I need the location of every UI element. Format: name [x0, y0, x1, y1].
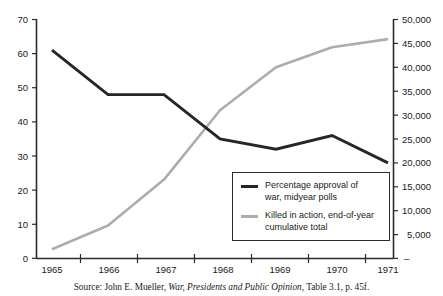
x-tick-label-1965: 1965: [41, 264, 62, 275]
source-note-suffix: , Table 3.1, p. 45f.: [302, 282, 370, 292]
legend-swatch-approval-line-icon: [241, 185, 258, 188]
left-tick-label-10: 10: [17, 219, 28, 230]
left-tick-label-40: 40: [17, 116, 28, 127]
right-tick-label-35000: 35,000: [402, 86, 431, 97]
left-tick-label-70: 70: [17, 14, 28, 25]
legend-item-approval: Percentage approval of war, midyear poll…: [241, 180, 380, 203]
source-note-work-title: War, Presidents and Public Opinion: [168, 282, 301, 292]
right-tick-label-45000: 45,000: [402, 38, 431, 49]
right-tick-label-25000: 25,000: [402, 134, 431, 145]
right-tick-label-50000: 50,000: [402, 14, 431, 25]
right-tick-label-0: –: [404, 253, 410, 264]
x-tick-label-1966: 1966: [98, 264, 119, 275]
x-tick-label-1968: 1968: [212, 264, 233, 275]
legend-item-killed: Killed in action, end-of-year cumulative…: [241, 210, 380, 233]
right-tick-label-5000: 5,000: [407, 229, 431, 240]
right-tick-label-20000: 20,000: [402, 157, 431, 168]
left-tick-label-50: 50: [17, 82, 28, 93]
source-note-prefix: Source: John E. Mueller,: [74, 282, 169, 292]
source-note: Source: John E. Mueller, War, Presidents…: [0, 282, 443, 292]
right-tick-label-30000: 30,000: [402, 110, 431, 121]
left-tick-label-0: 0: [23, 253, 28, 264]
left-tick-label-30: 30: [17, 151, 28, 162]
x-tick-label-1969: 1969: [269, 264, 290, 275]
legend-label-approval: Percentage approval of war, midyear poll…: [265, 180, 358, 203]
x-tick-label-1970: 1970: [326, 264, 347, 275]
chart-figure: 70 60 50 40 30 20 10 0 50,000 45,000 40,…: [0, 0, 443, 296]
right-tick-label-10000: 10,000: [402, 205, 431, 216]
legend-swatch-killed-line-icon: [241, 215, 258, 218]
x-tick-label-1967: 1967: [155, 264, 176, 275]
right-tick-label-40000: 40,000: [402, 62, 431, 73]
line-chart-plot: 70 60 50 40 30 20 10 0 50,000 45,000 40,…: [0, 0, 443, 296]
right-tick-label-15000: 15,000: [402, 181, 431, 192]
x-tick-label-1971: 1971: [377, 264, 398, 275]
legend-label-killed: Killed in action, end-of-year cumulative…: [265, 210, 374, 233]
series-line-percentage-approval: [52, 50, 388, 163]
chart-legend: Percentage approval of war, midyear poll…: [232, 172, 390, 241]
left-tick-label-60: 60: [17, 48, 28, 59]
left-tick-label-20: 20: [17, 185, 28, 196]
